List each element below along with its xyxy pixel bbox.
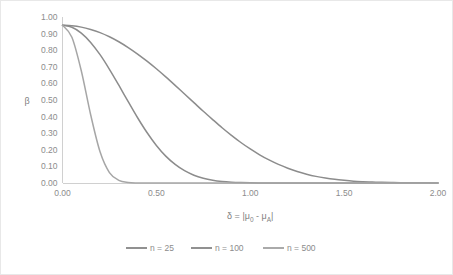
- y-tick-label: 0.30: [41, 128, 58, 138]
- y-tick-label: 1.00: [41, 12, 58, 22]
- y-tick-label: 0.80: [41, 45, 58, 55]
- legend-label: n = 100: [215, 243, 244, 253]
- x-tick-label: 1.00: [242, 188, 259, 198]
- legend-item[interactable]: n = 500: [263, 243, 316, 253]
- plot-area-wrapper: 0.000.100.200.300.400.500.600.700.800.90…: [1, 1, 453, 275]
- x-tick-label: 2.00: [430, 188, 447, 198]
- chart-container: 0.000.100.200.300.400.500.600.700.800.90…: [0, 0, 453, 275]
- series-line-2: [63, 25, 439, 183]
- y-axis-tick-labels: 0.000.100.200.300.400.500.600.700.800.90…: [41, 12, 58, 188]
- x-axis-title-text: δ = |μ0 - μA|: [227, 211, 273, 223]
- x-axis-title: δ = |μ0 - μA|: [227, 211, 273, 223]
- x-tick-label: 0.00: [54, 188, 71, 198]
- y-tick-label: 0.70: [41, 62, 58, 72]
- y-tick-label: 0.60: [41, 78, 58, 88]
- legend-label: n = 25: [150, 243, 174, 253]
- series-line-3: [63, 25, 439, 183]
- y-tick-label: 0.40: [41, 112, 58, 122]
- legend-item[interactable]: n = 25: [126, 243, 174, 253]
- legend-label: n = 500: [287, 243, 316, 253]
- y-tick-label: 0.20: [41, 145, 58, 155]
- series-lines: [63, 25, 439, 183]
- y-tick-label: 0.50: [41, 95, 58, 105]
- legend-item[interactable]: n = 100: [191, 243, 244, 253]
- y-tick-label: 0.00: [41, 178, 58, 188]
- chart-legend: n = 25n = 100n = 500: [126, 243, 316, 253]
- chart-svg: 0.000.100.200.300.400.500.600.700.800.90…: [1, 1, 453, 275]
- x-tick-label: 1.50: [336, 188, 353, 198]
- series-line-1: [63, 25, 439, 183]
- y-axis-title: β: [24, 96, 29, 106]
- y-tick-label: 0.10: [41, 161, 58, 171]
- x-axis-tick-labels: 0.000.501.001.502.00: [54, 188, 446, 198]
- x-tick-label: 0.50: [148, 188, 165, 198]
- y-tick-label: 0.90: [41, 29, 58, 39]
